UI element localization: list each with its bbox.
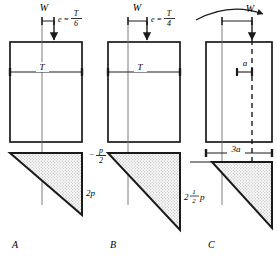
panel-a: W e = T 6 T 2p A: [10, 2, 96, 250]
panel-a-load-label: W: [40, 2, 50, 13]
panel-b-stress-right-unit: p: [199, 192, 205, 202]
panel-b-stress-left-sign: −: [89, 150, 94, 159]
panel-b-footing-rect: [108, 42, 180, 142]
panel-b-load-label: W: [133, 2, 143, 13]
panel-c-stress-triangle: [212, 162, 272, 228]
figure-sheet: W e = T 6 T 2p A W e =: [0, 0, 277, 259]
panel-b-stress-left-numerator: p: [98, 146, 103, 155]
panel-b-stress-right-denominator: 2: [192, 197, 196, 205]
panel-a-stress-right-label: 2p: [86, 188, 96, 198]
panel-a-eccentricity-label: e =: [58, 15, 69, 24]
panel-b-stress-triangle: [108, 153, 180, 230]
panel-c-caption: C: [208, 239, 215, 250]
panel-b-eccentricity-numerator: T: [167, 9, 172, 18]
panel-a-caption: A: [11, 239, 19, 250]
panel-b: W e = T 4 T − p 2 2 1 2 p B: [89, 2, 205, 250]
panel-a-footing-rect: [10, 42, 82, 142]
panel-b-caption: B: [110, 239, 116, 250]
panel-a-eccentricity-numerator: T: [74, 9, 79, 18]
panel-b-stress-right-numerator: 1: [192, 188, 196, 196]
panel-b-stress-right-whole: 2: [184, 192, 189, 202]
panel-c: W a 3a C: [190, 3, 272, 250]
panel-c-footing-rect: [206, 42, 272, 142]
panel-a-eccentricity-denominator: 6: [74, 19, 78, 28]
panel-b-eccentricity-denominator: 4: [167, 19, 171, 28]
panel-c-dim-small-label: a: [243, 58, 248, 68]
panel-c-dim-large-label: 3a: [231, 144, 242, 154]
panel-b-eccentricity-label: e =: [151, 15, 162, 24]
panel-b-stress-left-denominator: 2: [99, 156, 103, 165]
panel-c-load-label: W: [246, 3, 256, 14]
panel-a-stress-triangle: [10, 153, 82, 215]
engineering-diagram: W e = T 6 T 2p A W e =: [0, 0, 277, 259]
